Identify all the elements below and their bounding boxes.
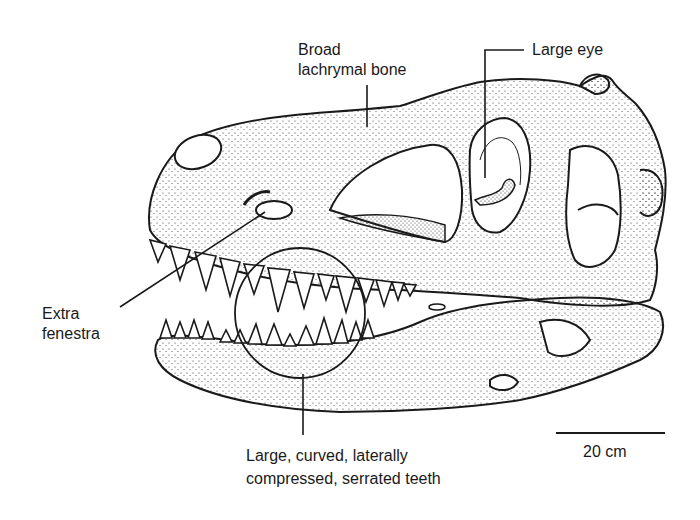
laterotemporal-fenestra xyxy=(566,146,620,267)
label-extra-fenestra: Extra fenestra xyxy=(42,304,100,344)
label-large-eye: Large eye xyxy=(532,40,603,60)
label-lachrymal-line1: Broad xyxy=(298,40,407,60)
mandible xyxy=(155,298,663,412)
label-lachrymal-line2: lachrymal bone xyxy=(298,60,407,80)
scale-bar-label: 20 cm xyxy=(583,442,627,462)
label-lachrymal: Broad lachrymal bone xyxy=(298,40,407,80)
label-fenestra-line1: Extra xyxy=(42,304,100,324)
label-teeth: Large, curved, laterally compressed, ser… xyxy=(246,446,441,489)
label-fenestra-line2: fenestra xyxy=(42,324,100,344)
extra-fenestra-opening xyxy=(256,201,292,219)
label-teeth-line2: compressed, serrated teeth xyxy=(246,469,441,489)
label-teeth-line1: Large, curved, laterally xyxy=(246,446,441,466)
